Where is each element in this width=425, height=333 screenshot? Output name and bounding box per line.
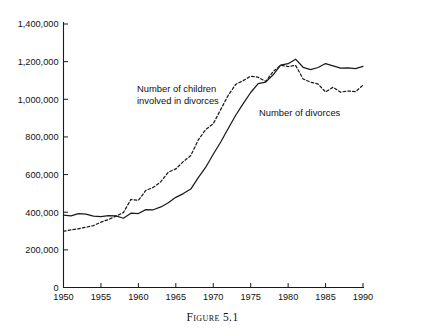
y-tick-label: 1,000,000 xyxy=(18,95,59,105)
y-axis: 0200,000400,000600,000800,0001,000,0001,… xyxy=(18,19,68,293)
x-tick-label: 1965 xyxy=(166,292,186,302)
x-axis-tick-labels: 195019551960196519701975198019851990 xyxy=(53,292,373,302)
x-axis-tick-marks xyxy=(64,283,364,288)
y-tick-label: 1,200,000 xyxy=(18,57,59,67)
y-axis-tick-labels: 0200,000400,000600,000800,0001,000,0001,… xyxy=(18,19,59,293)
x-tick-label: 1985 xyxy=(315,292,335,302)
x-tick-label: 1980 xyxy=(278,292,298,302)
x-tick-label: 1950 xyxy=(53,292,73,302)
figure-caption: Figure 5.1 xyxy=(0,311,425,323)
divorce-statistics-line-chart: 0200,000400,000600,000800,0001,000,0001,… xyxy=(0,0,425,333)
x-tick-label: 1955 xyxy=(91,292,111,302)
y-tick-label: 400,000 xyxy=(25,208,58,218)
y-tick-label: 600,000 xyxy=(25,170,58,180)
y-tick-label: 1,400,000 xyxy=(18,19,59,29)
y-tick-label: 200,000 xyxy=(25,245,58,255)
x-tick-label: 1970 xyxy=(203,292,223,302)
x-tick-label: 1975 xyxy=(240,292,260,302)
children-series-label-line2: involved in divorces xyxy=(137,95,219,106)
series-inline-labels: Number of children involved in divorces … xyxy=(137,83,341,118)
divorces-series-label: Number of divorces xyxy=(259,107,341,118)
x-tick-label: 1960 xyxy=(128,292,148,302)
y-tick-label: 800,000 xyxy=(25,132,58,142)
x-tick-label: 1990 xyxy=(353,292,373,302)
x-axis: 195019551960196519701975198019851990 xyxy=(53,283,373,302)
children-series-label-line1: Number of children xyxy=(137,83,216,94)
figure-container: 0200,000400,000600,000800,0001,000,0001,… xyxy=(0,0,425,333)
